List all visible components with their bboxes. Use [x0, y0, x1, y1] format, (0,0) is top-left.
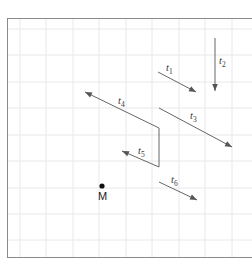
- vector-arrowhead-t4: [85, 92, 92, 98]
- vector-arrowhead-t1: [189, 86, 196, 92]
- vector-label-t5: t5: [138, 146, 145, 159]
- point-marker-m: [99, 183, 104, 188]
- vector-label-t6: t6: [171, 175, 178, 188]
- vector-label-subscript-t2: 2: [222, 60, 226, 69]
- vector-t6: [159, 182, 197, 200]
- vector-label-subscript-t3: 3: [193, 115, 197, 124]
- vector-label-subscript-t4: 4: [121, 100, 125, 109]
- vector-arrowhead-t2: [212, 84, 218, 91]
- vector-label-subscript-t5: 5: [141, 150, 145, 159]
- vector-arrowhead-t3: [225, 141, 232, 147]
- vector-label-t4: t4: [118, 96, 125, 109]
- vector-t2: [212, 38, 218, 91]
- vector-label-subscript-t6: 6: [174, 179, 178, 188]
- diagram-canvas: [0, 0, 252, 274]
- vector-label-t1: t1: [166, 63, 173, 76]
- vector-arrowhead-t6: [190, 195, 197, 200]
- vector-grid-diagram: t1 t2 t3 t4 t5 t6 M: [0, 0, 252, 274]
- vector-label-t3: t3: [190, 111, 197, 124]
- vector-label-subscript-t1: 1: [169, 67, 173, 76]
- point-label-m: M: [98, 191, 107, 202]
- vector-label-t2: t2: [219, 56, 226, 69]
